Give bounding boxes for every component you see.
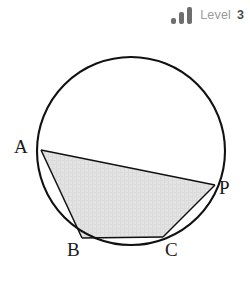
vertex-label-p: P (219, 178, 230, 197)
figure-canvas: Level 3 A B C P (0, 0, 250, 294)
chord-b-c (82, 237, 163, 238)
geometry-diagram (0, 0, 250, 294)
vertex-label-a: A (14, 137, 28, 156)
vertex-label-c: C (165, 240, 178, 259)
vertex-label-b: B (67, 240, 80, 259)
